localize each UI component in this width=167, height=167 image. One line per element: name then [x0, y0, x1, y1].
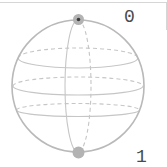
latitude-middle-back-dashed	[13, 77, 143, 86]
bloch-sphere-diagram: 0 1	[0, 0, 167, 167]
north-pole-center-dot	[77, 18, 81, 22]
latitude-upper-back-dashed	[18, 48, 138, 58]
meridian-front	[65, 20, 78, 152]
latitude-middle-front	[13, 86, 143, 95]
sphere-outline	[12, 20, 144, 152]
meridian-back-dashed	[78, 20, 91, 152]
latitude-lower-back-dashed	[17, 104, 140, 111]
latitude-upper-front	[18, 58, 138, 68]
latitude-lower-front	[17, 110, 140, 117]
south-pole-marker	[73, 147, 85, 159]
state-one-label: 1	[136, 148, 147, 166]
sphere-drawing	[0, 0, 167, 167]
state-zero-label: 0	[124, 8, 135, 26]
